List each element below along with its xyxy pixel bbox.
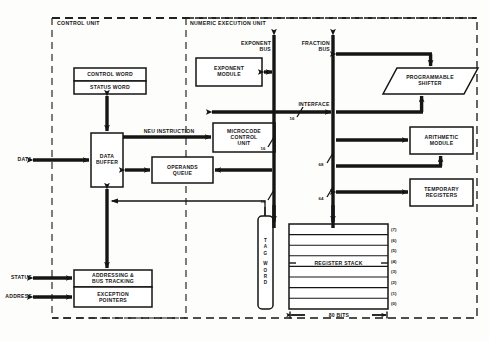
block-data-buffer [91,133,123,187]
diagram-canvas: CONTROL UNIT NUMERIC EXECUTION UNIT DATA… [0,0,489,341]
label-tag-word: T A G W O R D [258,238,273,287]
block-addressing [74,270,152,287]
block-microcode-control-unit [213,123,275,152]
block-exponent-module [196,58,262,86]
feedback-line [112,201,265,216]
block-programmable-shifter [383,68,478,94]
block-control-word [74,68,146,81]
bus-width-ticks [268,107,333,200]
block-temporary-registers [410,179,473,206]
block-status-word [74,81,146,94]
diagram-vector-layer [0,0,489,341]
block-arithmetic-module [410,127,473,154]
feedback-arrow [111,199,119,204]
block-exception-pointers [74,287,152,307]
block-operands-queue [152,157,213,183]
tag-word-char: D [258,280,273,286]
feedback-path [111,199,266,216]
